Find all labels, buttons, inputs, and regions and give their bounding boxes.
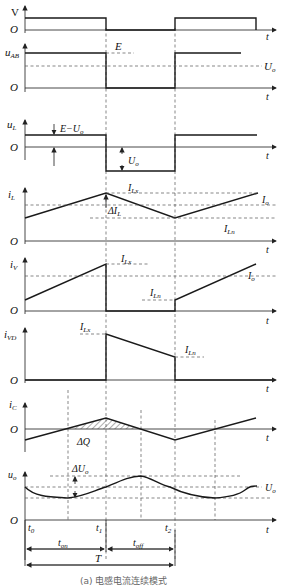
panel-ic: iC ΔQ O t xyxy=(9,398,276,452)
svg-text:uo: uo xyxy=(8,469,17,482)
svg-text:O: O xyxy=(10,141,18,153)
svg-text:O: O xyxy=(10,235,18,247)
svg-text:ILn: ILn xyxy=(184,344,196,357)
svg-text:ILn: ILn xyxy=(223,223,235,236)
svg-text:O: O xyxy=(10,304,18,316)
svg-text:ILn: ILn xyxy=(149,287,161,300)
panel-ivd: iVD ILx ILn O t xyxy=(4,321,276,394)
svg-text:t2: t2 xyxy=(165,522,172,535)
svg-text:uAB: uAB xyxy=(5,46,20,60)
buck-converter-waveforms: V O t uAB E Uo O t uL E−Uo Uo O t xyxy=(0,0,286,587)
svg-text:t: t xyxy=(266,31,269,42)
svg-text:O: O xyxy=(10,81,18,93)
ylabel-v: V xyxy=(11,6,19,18)
panel-iv: iV ILx Io ILn O t t xyxy=(10,244,276,326)
svg-text:t0: t0 xyxy=(28,522,35,535)
svg-text:O: O xyxy=(10,23,18,35)
svg-text:E: E xyxy=(114,40,122,52)
time-gridlines xyxy=(68,28,215,560)
svg-text:Uo: Uo xyxy=(265,482,276,495)
svg-text:Io: Io xyxy=(247,270,255,283)
svg-text:uL: uL xyxy=(7,118,17,132)
svg-text:ILx: ILx xyxy=(120,253,132,266)
svg-text:iVD: iVD xyxy=(4,328,16,342)
svg-text:t: t xyxy=(266,150,269,161)
delta-q-area xyxy=(68,418,141,429)
svg-text:ILx: ILx xyxy=(79,321,91,334)
svg-text:t: t xyxy=(266,432,269,443)
svg-text:ton: ton xyxy=(58,537,68,550)
svg-text:ΔIL: ΔIL xyxy=(107,205,121,218)
svg-text:t1: t1 xyxy=(96,522,102,535)
svg-text:iC: iC xyxy=(9,398,17,412)
svg-text:ΔUo: ΔUo xyxy=(71,463,89,476)
svg-text:t: t xyxy=(266,315,269,326)
svg-text:Uo: Uo xyxy=(264,60,276,74)
svg-text:O: O xyxy=(10,374,18,386)
svg-text:O: O xyxy=(10,514,18,526)
svg-text:t: t xyxy=(266,91,269,102)
svg-text:t: t xyxy=(266,524,269,535)
panel-ul: uL E−Uo Uo O t xyxy=(7,118,276,171)
svg-text:toff: toff xyxy=(133,537,144,550)
panel-uab: uAB E Uo O t xyxy=(5,40,276,102)
svg-text:t: t xyxy=(266,383,269,394)
figure-caption: (a) 电感电流连续模式 xyxy=(80,575,167,586)
svg-text:iL: iL xyxy=(8,188,15,202)
svg-text:E−Uo: E−Uo xyxy=(59,123,84,136)
svg-text:T: T xyxy=(95,552,102,564)
svg-text:t: t xyxy=(266,244,269,255)
svg-text:O: O xyxy=(10,423,18,435)
panel-gate: V O t xyxy=(10,6,276,42)
panel-il: iL ILx ΔIL Io ILn O xyxy=(8,182,276,247)
svg-text:iV: iV xyxy=(10,258,18,272)
svg-text:ΔQ: ΔQ xyxy=(76,436,91,447)
svg-text:Uo: Uo xyxy=(128,155,139,168)
